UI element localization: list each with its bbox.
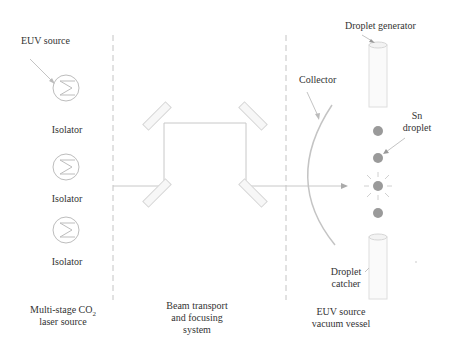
vacuum-vessel-section-label: EUV source vacuum vessel [312,306,371,330]
droplet-catcher-label: Droplet catcher [331,266,362,290]
sn-droplet-line2: droplet [403,122,431,134]
laser-source-section-label: Multi-stage CO2 laser source [30,304,96,328]
collector-label: Collector [299,74,336,86]
beam-transport-section-label: Beam transport and focusing system [166,300,227,336]
sn-droplet-line1: Sn [403,110,431,122]
stray-dot [415,261,417,263]
beam-transport-line1: Beam transport [166,300,227,312]
co2-subscript: 2 [93,310,97,318]
isolator-icon [53,154,79,180]
laser-source-line1: Multi-stage CO [30,304,93,315]
droplet-catcher-cylinder [369,234,387,299]
beam-transport-line3: system [166,324,227,336]
isolator-label: Isolator [52,256,83,268]
droplet-generator-cylinder [369,42,387,107]
vacuum-vessel-line2: vacuum vessel [312,318,371,330]
droplet-catcher-arrow [365,268,369,272]
droplet-generator-label: Droplet generator [345,20,416,32]
sn-droplet-irradiated [373,181,383,191]
mirror-icon [143,102,171,130]
sn-droplet-arrow [383,138,405,154]
mirror-icon [239,102,267,130]
euv-system-diagram [0,0,449,349]
beam-arrowhead [341,183,348,189]
droplet-generator-arrow [362,35,375,43]
mirror-icon [143,179,171,207]
laser-source-line2: laser source [30,316,96,328]
droplet-catcher-line1: Droplet [331,266,362,278]
collector-mirror [308,105,335,245]
mirror-icon [239,179,267,207]
droplet-catcher-line2: catcher [331,278,362,290]
isolator-icon [53,75,79,101]
sn-droplet [373,153,383,163]
sn-droplet [373,126,383,136]
isolator-label: Isolator [52,124,83,136]
isolator-icon [53,217,79,243]
vacuum-vessel-line1: EUV source [312,306,371,318]
euv-source-arrow [30,59,55,84]
beam-transport-line2: and focusing [166,312,227,324]
sn-droplet [373,208,383,218]
collector-arrow [307,92,320,120]
sn-droplet-label: Sn droplet [403,110,431,134]
isolator-label: Isolator [52,193,83,205]
euv-source-label: EUV source [21,35,70,47]
